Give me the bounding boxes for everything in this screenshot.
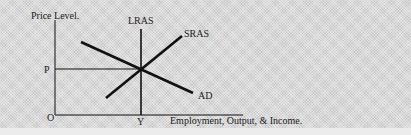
ad-curve bbox=[81, 42, 193, 93]
ad-as-diagram: Price Level. LRAS SRAS AD P O Y Employme… bbox=[0, 0, 411, 135]
lras-label: LRAS bbox=[128, 15, 154, 26]
x-axis-label: Employment, Output, & Income. bbox=[170, 115, 302, 126]
y-axis-label: Price Level. bbox=[31, 10, 79, 21]
diagram-canvas: Price Level. LRAS SRAS AD P O Y Employme… bbox=[0, 0, 411, 135]
sras-curve bbox=[106, 36, 182, 98]
price-label: P bbox=[44, 64, 50, 75]
origin-label: O bbox=[47, 112, 54, 123]
ad-label: AD bbox=[198, 90, 212, 101]
output-label: Y bbox=[137, 116, 144, 127]
sras-label: SRAS bbox=[184, 28, 209, 39]
